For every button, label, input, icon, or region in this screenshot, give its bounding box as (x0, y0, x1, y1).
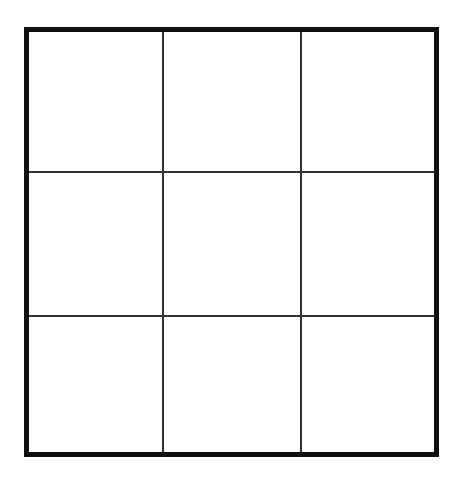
tic-tac-toe-board (24, 27, 439, 457)
cell-r1-c2[interactable] (163, 32, 300, 171)
cell-r1-c3[interactable] (301, 32, 434, 171)
cell-r2-c3[interactable] (301, 172, 434, 315)
cell-r1-c1[interactable] (29, 32, 162, 171)
cell-r3-c2[interactable] (163, 316, 300, 452)
cell-r3-c3[interactable] (301, 316, 434, 452)
cell-r2-c1[interactable] (29, 172, 162, 315)
cell-r3-c1[interactable] (29, 316, 162, 452)
cell-r2-c2[interactable] (163, 172, 300, 315)
